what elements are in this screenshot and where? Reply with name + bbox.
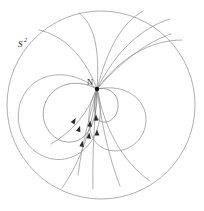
sphere-label: S — [18, 39, 23, 49]
fan-curve-1 — [97, 34, 171, 89]
flow-arrowhead-2 — [76, 125, 82, 132]
fan-curves-group — [39, 11, 182, 89]
figure-canvas: S 2 N — [0, 0, 204, 211]
flow-arrowhead-7 — [95, 130, 100, 136]
descending-curve-5 — [62, 89, 97, 188]
singular-point-group — [95, 87, 99, 91]
fan-curve-2 — [97, 40, 182, 89]
sphere-vector-field-figure: S 2 N — [0, 0, 204, 211]
north-pole-label: N — [87, 77, 93, 87]
sphere-label-exponent: 2 — [24, 37, 27, 43]
fan-curve-4 — [97, 11, 143, 89]
flow-curves-group — [18, 11, 182, 189]
lobe-curves-group — [18, 75, 146, 160]
north-pole-point — [95, 87, 99, 91]
